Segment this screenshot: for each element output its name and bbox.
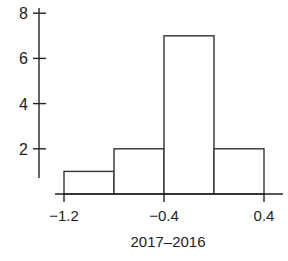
x-axis-label: 2017–2016 xyxy=(130,233,205,250)
y-tick-label: 4 xyxy=(19,96,28,113)
histogram-bar xyxy=(114,149,164,194)
x-tick-label: −0.4 xyxy=(149,207,179,224)
x-tick-label: −1.2 xyxy=(49,207,79,224)
histogram-bar xyxy=(214,149,264,194)
y-axis-ticks: 2468 xyxy=(19,5,46,158)
histogram-bar xyxy=(164,36,214,194)
x-axis-ticks: −1.2−0.40.4 xyxy=(49,194,274,224)
histogram-bar xyxy=(64,171,114,194)
histogram-chart: 2468 −1.2−0.40.4 2017–2016 xyxy=(0,0,288,261)
y-tick-label: 6 xyxy=(19,50,28,67)
histogram-bars xyxy=(64,36,264,194)
x-tick-label: 0.4 xyxy=(254,207,275,224)
y-tick-label: 2 xyxy=(19,141,28,158)
y-tick-label: 8 xyxy=(19,5,28,22)
